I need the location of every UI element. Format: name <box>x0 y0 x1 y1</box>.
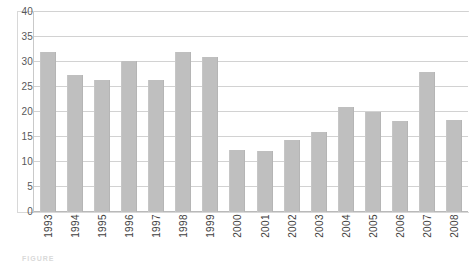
x-tick-label-2008: 2008 <box>449 214 460 238</box>
y-tick-label-0: 0 <box>3 207 33 217</box>
x-tick-label-2007: 2007 <box>422 214 433 238</box>
plot-area <box>34 12 468 212</box>
y-tick-label-10: 10 <box>3 157 33 167</box>
bar-1999 <box>202 57 218 212</box>
bar-1995 <box>94 80 110 213</box>
x-tick-label-1997: 1997 <box>151 214 162 238</box>
y-tick-label-15: 15 <box>3 132 33 142</box>
bar-2007 <box>419 72 435 212</box>
y-tick-label-35: 35 <box>3 32 33 42</box>
x-tick-label-2001: 2001 <box>260 214 271 238</box>
bar-series <box>34 12 468 212</box>
x-tick-label-1999: 1999 <box>205 214 216 238</box>
bar-2008 <box>446 120 462 213</box>
bar-2001 <box>257 151 273 213</box>
bar-2006 <box>392 121 408 212</box>
bar-1998 <box>175 52 191 212</box>
bar-2002 <box>284 140 300 213</box>
x-tick-label-1996: 1996 <box>124 214 135 238</box>
y-tick-label-5: 5 <box>3 182 33 192</box>
bar-2000 <box>229 150 245 213</box>
bar-1993 <box>40 52 56 212</box>
y-tick-label-25: 25 <box>3 82 33 92</box>
y-tick-label-40: 40 <box>3 7 33 17</box>
x-tick-label-2006: 2006 <box>395 214 406 238</box>
x-tick-label-1998: 1998 <box>178 214 189 238</box>
y-axis-tick-labels: 0510152025303540 <box>0 0 33 212</box>
x-tick-label-1995: 1995 <box>97 214 108 238</box>
bar-1994 <box>67 75 83 213</box>
x-tick-label-2002: 2002 <box>287 214 298 238</box>
figure-container: 0510152025303540 19931994199519961997199… <box>0 0 471 265</box>
x-tick-label-1993: 1993 <box>43 214 54 238</box>
bar-2004 <box>338 107 354 212</box>
x-tick-label-1994: 1994 <box>70 214 81 238</box>
bar-2005 <box>365 112 381 212</box>
y-tick-label-30: 30 <box>3 57 33 67</box>
bar-2003 <box>311 132 327 212</box>
x-axis-tick-labels: 1993199419951996199719981999200020012002… <box>34 214 468 262</box>
figure-caption: FIGURE <box>22 255 54 262</box>
bar-1997 <box>148 80 164 213</box>
x-tick-label-2005: 2005 <box>368 214 379 238</box>
x-tick-label-2000: 2000 <box>232 214 243 238</box>
y-tick-label-20: 20 <box>3 107 33 117</box>
bar-1996 <box>121 61 137 213</box>
x-tick-label-2004: 2004 <box>341 214 352 238</box>
x-tick-label-2003: 2003 <box>314 214 325 238</box>
